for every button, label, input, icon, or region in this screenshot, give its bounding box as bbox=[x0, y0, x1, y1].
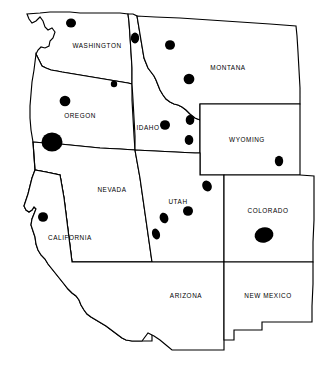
states-layer bbox=[24, 12, 314, 350]
state-label-new-mexico: NEW MEXICO bbox=[244, 292, 291, 299]
state-label-montana: MONTANA bbox=[210, 64, 246, 71]
state-label-wyoming: WYOMING bbox=[229, 136, 265, 143]
occurrence-marker[interactable] bbox=[131, 33, 139, 44]
occurrence-marker[interactable] bbox=[185, 135, 194, 145]
state-label-california: CALIFORNIA bbox=[48, 234, 92, 241]
western-us-outline-map: WASHINGTONOREGONIDAHOMONTANAWYOMINGNEVAD… bbox=[0, 0, 329, 368]
occurrence-marker[interactable] bbox=[42, 133, 63, 152]
occurrence-marker[interactable] bbox=[111, 81, 117, 87]
occurrence-marker[interactable] bbox=[184, 74, 195, 84]
occurrence-marker[interactable] bbox=[186, 115, 195, 125]
state-label-idaho: IDAHO bbox=[137, 124, 160, 131]
state-shape-new-mexico[interactable] bbox=[224, 262, 313, 340]
state-label-nevada: NEVADA bbox=[97, 186, 126, 193]
state-shape-colorado[interactable] bbox=[224, 175, 314, 262]
occurrence-marker[interactable] bbox=[183, 206, 193, 216]
occurrence-marker[interactable] bbox=[60, 96, 71, 106]
state-label-utah: UTAH bbox=[168, 198, 187, 205]
state-label-oregon: OREGON bbox=[64, 112, 96, 119]
state-label-colorado: COLORADO bbox=[248, 207, 289, 214]
occurrence-marker[interactable] bbox=[66, 18, 76, 27]
occurrence-marker[interactable] bbox=[160, 120, 170, 130]
map-container: WASHINGTONOREGONIDAHOMONTANAWYOMINGNEVAD… bbox=[0, 0, 329, 368]
state-label-arizona: ARIZONA bbox=[170, 292, 202, 299]
occurrence-marker[interactable] bbox=[165, 40, 175, 50]
occurrence-marker[interactable] bbox=[275, 156, 283, 166]
occurrence-marker[interactable] bbox=[38, 212, 48, 222]
state-label-washington: WASHINGTON bbox=[72, 42, 121, 49]
